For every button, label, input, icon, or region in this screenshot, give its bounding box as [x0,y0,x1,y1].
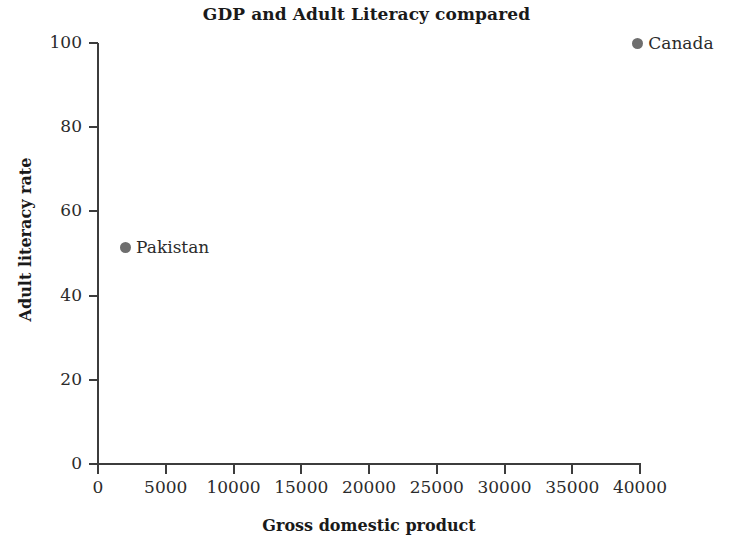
y-tick-label-text: 0 [36,455,82,472]
x-tick-label: 40000 [595,479,685,496]
y-tick-mark [89,42,98,44]
x-tick-mark [233,464,235,474]
y-tick-label: 20 [32,371,82,389]
x-tick-mark [165,464,167,474]
y-tick-mark [89,126,98,128]
y-tick-label-text: 40 [36,287,82,304]
y-tick-mark [89,295,98,297]
y-tick-label: 40 [32,287,82,305]
y-tick-label: 80 [32,118,82,136]
plot-area: PakistanCanada [98,43,640,464]
data-point[interactable] [632,38,643,49]
y-axis-title: Adult literacy rate [16,120,35,360]
data-point-label: Pakistan [136,239,209,256]
y-tick-label-text: 20 [36,371,82,388]
x-tick-mark [639,464,641,474]
y-tick-mark [89,210,98,212]
data-point[interactable] [120,242,131,253]
y-tick-label: 0 [32,455,82,473]
x-axis-title: Gross domestic product [98,516,640,535]
chart-title: GDP and Adult Literacy compared [0,4,733,24]
y-tick-label-text: 80 [36,118,82,135]
x-tick-mark [571,464,573,474]
x-tick-mark [300,464,302,474]
x-tick-mark [436,464,438,474]
x-tick-mark [97,464,99,474]
scatter-chart-figure: GDP and Adult Literacy compared 02040608… [0,0,733,556]
y-tick-label-text: 60 [36,202,82,219]
y-tick-label: 60 [32,202,82,220]
x-tick-mark [368,464,370,474]
x-tick-mark [504,464,506,474]
y-tick-label-text: 100 [36,34,82,51]
data-point-label: Canada [648,35,713,52]
y-tick-mark [89,379,98,381]
y-tick-label: 100 [32,34,82,52]
